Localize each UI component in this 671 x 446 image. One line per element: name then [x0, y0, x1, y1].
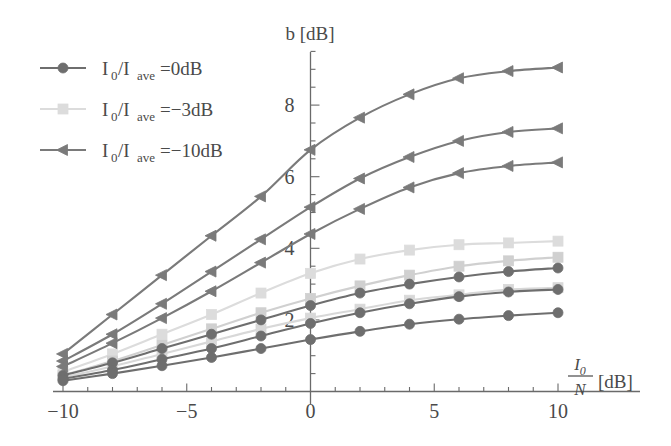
marker-circle	[553, 284, 563, 294]
marker-square	[553, 252, 563, 262]
marker-circle	[256, 331, 266, 341]
legend-label-slash: /I	[118, 140, 130, 161]
legend-label-prefix: I	[102, 140, 108, 161]
marker-circle	[157, 344, 167, 354]
legend-label-value: =−3dB	[160, 99, 213, 120]
legend-label-prefix-sub: 0	[111, 150, 118, 165]
marker-circle	[58, 63, 68, 73]
marker-square	[207, 310, 217, 320]
marker-square	[58, 104, 68, 114]
marker-square	[157, 329, 167, 339]
x-tick-label: −5	[176, 400, 197, 422]
marker-circle	[355, 326, 365, 336]
marker-circle	[355, 308, 365, 318]
marker-circle	[207, 352, 217, 362]
marker-square	[504, 238, 514, 248]
marker-circle	[454, 314, 464, 324]
marker-circle	[256, 315, 266, 325]
legend-label-value: =−10dB	[160, 140, 223, 161]
marker-circle	[355, 288, 365, 298]
marker-circle	[108, 369, 118, 379]
legend-label-slash: /I	[118, 58, 130, 79]
legend-label-prefix: I	[102, 58, 108, 79]
marker-circle	[454, 272, 464, 282]
x-tick-label: 0	[306, 400, 316, 422]
marker-circle	[306, 335, 316, 345]
marker-circle	[553, 263, 563, 273]
line-chart: b [dB] −10−50510 2468 I0/Iave=0dBI0/Iave…	[0, 0, 671, 446]
legend-label-slash-sub: ave	[137, 109, 155, 124]
marker-circle	[306, 301, 316, 311]
marker-circle	[306, 318, 316, 328]
chart-figure: b [dB] −10−50510 2468 I0/Iave=0dBI0/Iave…	[0, 0, 671, 446]
x-tick-label: −10	[47, 400, 78, 422]
marker-circle	[454, 292, 464, 302]
x-tick-label: 10	[548, 400, 568, 422]
legend-label-slash-sub: ave	[137, 150, 155, 165]
marker-circle	[504, 311, 514, 321]
marker-circle	[207, 344, 217, 354]
marker-square	[405, 245, 415, 255]
marker-square	[553, 236, 563, 246]
legend-label-slash: /I	[118, 99, 130, 120]
marker-square	[504, 256, 514, 266]
marker-square	[454, 240, 464, 250]
marker-circle	[58, 376, 68, 386]
y-tick-label: 8	[285, 94, 295, 116]
legend-label-prefix: I	[102, 99, 108, 120]
y-axis-title: b [dB]	[285, 23, 334, 44]
marker-circle	[405, 279, 415, 289]
marker-circle	[405, 299, 415, 309]
legend-label-slash-sub: ave	[137, 68, 155, 83]
x-tick-label: 5	[429, 400, 439, 422]
marker-square	[306, 268, 316, 278]
marker-circle	[157, 361, 167, 371]
marker-square	[256, 288, 266, 298]
legend-label-value: =0dB	[160, 58, 202, 79]
chart-background	[0, 0, 671, 446]
x-axis-title-denominator: N	[573, 380, 587, 399]
legend-label-prefix-sub: 0	[111, 68, 118, 83]
x-axis-title-units: [dB]	[598, 371, 633, 392]
marker-circle	[504, 267, 514, 277]
marker-circle	[405, 319, 415, 329]
marker-circle	[504, 287, 514, 297]
marker-circle	[553, 308, 563, 318]
marker-square	[405, 270, 415, 280]
marker-circle	[256, 344, 266, 354]
legend-label-prefix-sub: 0	[111, 109, 118, 124]
marker-square	[454, 261, 464, 271]
marker-square	[355, 254, 365, 264]
marker-circle	[207, 329, 217, 339]
